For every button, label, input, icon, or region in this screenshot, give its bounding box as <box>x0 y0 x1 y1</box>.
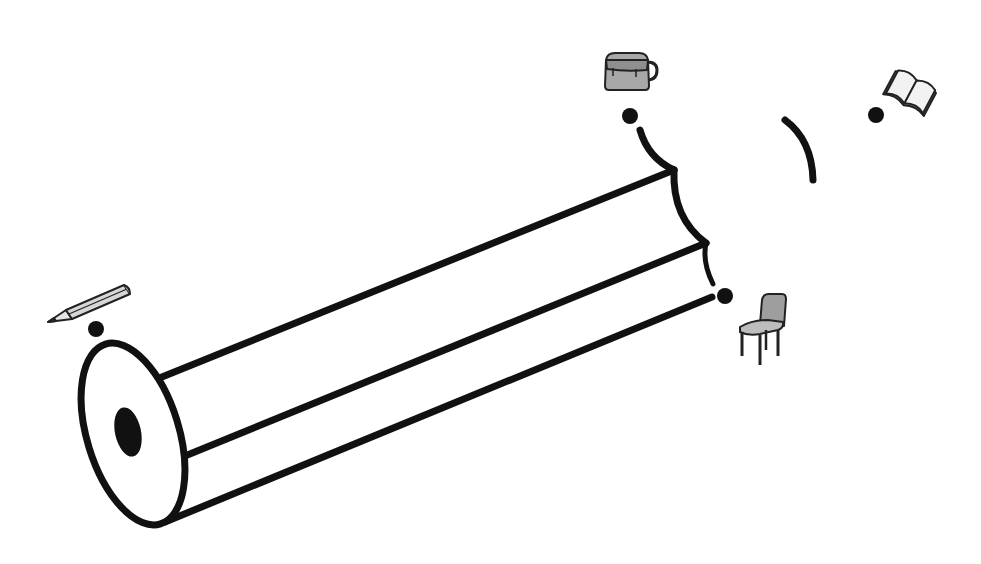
cylinder-top-edge <box>152 170 674 381</box>
cylinder-right-profile-middle <box>674 170 706 243</box>
cylinder-right-profile-upper <box>640 130 674 170</box>
diagram-canvas <box>0 0 981 564</box>
cylinder-middle-edge <box>180 243 706 458</box>
landmark-dot-book[interactable] <box>868 107 884 123</box>
pencil-icon <box>48 285 130 322</box>
landmark-dot-bag[interactable] <box>622 108 638 124</box>
book-icon <box>883 67 938 116</box>
chair-icon <box>740 294 786 365</box>
bag-icon <box>605 53 657 90</box>
partial-arc <box>785 120 813 180</box>
landmark-dot-pencil[interactable] <box>88 321 104 337</box>
landmark-dot-chair[interactable] <box>717 288 733 304</box>
cylinder-right-profile-lower <box>705 243 713 284</box>
cylinder-bottom-edge <box>165 297 712 522</box>
